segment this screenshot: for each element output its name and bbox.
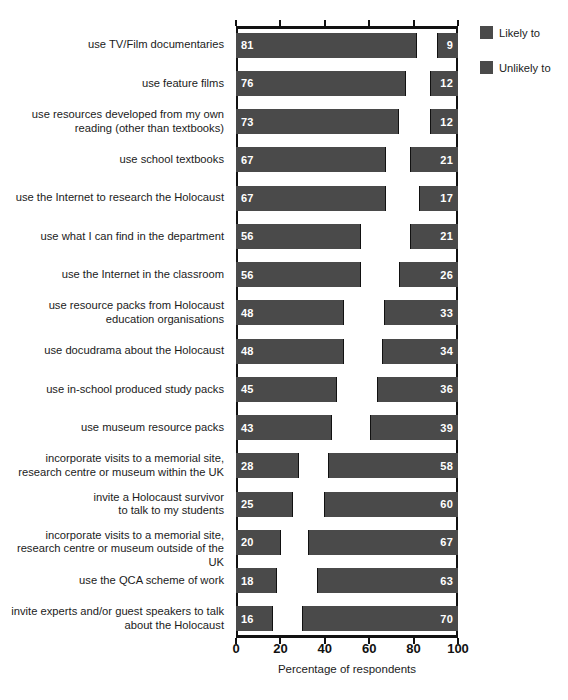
bar-row: 4833	[236, 300, 458, 325]
category-label: use the Internet in the classroom	[0, 268, 224, 281]
category-label-line: incorporate visits to a memorial site,	[0, 452, 224, 465]
x-tick-label: 40	[318, 641, 332, 656]
category-label-line: use the Internet in the classroom	[0, 268, 224, 281]
segment-unlikely: 58	[329, 453, 458, 478]
category-label: use resources developed from my ownreadi…	[0, 108, 224, 135]
category-label: use the QCA scheme of work	[0, 574, 224, 587]
segment-likely: 73	[236, 109, 398, 134]
legend-swatch-icon	[480, 61, 493, 74]
value-label-unlikely: 33	[440, 307, 453, 318]
category-label: use school textbooks	[0, 153, 224, 166]
x-tick-label: 20	[273, 641, 287, 656]
value-label-unlikely: 12	[440, 116, 453, 127]
segment-likely: 81	[236, 33, 416, 58]
segment-neutral	[331, 415, 371, 440]
value-label-likely: 76	[241, 78, 254, 89]
segment-neutral	[343, 339, 383, 364]
segment-neutral	[298, 453, 329, 478]
value-label-unlikely: 36	[440, 384, 453, 395]
value-label-unlikely: 17	[440, 193, 453, 204]
category-label-line: research centre or museum within the UK	[0, 466, 224, 479]
segment-unlikely: 36	[378, 377, 458, 402]
value-label-likely: 43	[241, 422, 254, 433]
legend-label: Unlikely to	[499, 62, 551, 74]
segment-unlikely: 12	[431, 71, 458, 96]
segment-unlikely: 17	[420, 186, 458, 211]
segment-unlikely: 67	[309, 530, 458, 555]
segment-neutral	[385, 147, 412, 172]
stacked-bar-chart: use TV/Film documentariesuse feature fil…	[0, 0, 568, 700]
segment-unlikely: 12	[431, 109, 458, 134]
value-label-likely: 48	[241, 346, 254, 357]
value-label-likely: 25	[241, 499, 254, 510]
category-label-line: use what I can find in the department	[0, 230, 224, 243]
value-label-unlikely: 39	[440, 422, 453, 433]
x-axis-title: Percentage of respondents	[236, 663, 458, 675]
category-label-line: use in-school produced study packs	[0, 383, 224, 396]
segment-neutral	[292, 492, 325, 517]
value-label-unlikely: 21	[440, 231, 453, 242]
segment-likely: 48	[236, 339, 343, 364]
segment-neutral	[405, 71, 432, 96]
plot-area: 8197612731267216717562156264833483445364…	[236, 26, 458, 638]
legend-swatch-icon	[480, 26, 493, 39]
segment-neutral	[398, 109, 431, 134]
bar-row: 4536	[236, 377, 458, 402]
bar-row: 2560	[236, 492, 458, 517]
x-tick-label: 0	[232, 641, 239, 656]
segment-unlikely: 21	[411, 147, 458, 172]
segment-neutral	[385, 186, 421, 211]
bar-row: 4834	[236, 339, 458, 364]
bar-row: 7612	[236, 71, 458, 96]
value-label-likely: 28	[241, 460, 254, 471]
category-label: use feature films	[0, 77, 224, 90]
segment-likely: 56	[236, 224, 360, 249]
value-label-unlikely: 60	[440, 499, 453, 510]
bar-row: 4339	[236, 415, 458, 440]
value-label-likely: 67	[241, 193, 254, 204]
category-label: use docudrama about the Holocaust	[0, 344, 224, 357]
segment-neutral	[336, 377, 378, 402]
segment-likely: 20	[236, 530, 280, 555]
category-label: use the Internet to research the Holocau…	[0, 191, 224, 204]
category-label-line: to talk to my students	[0, 504, 224, 517]
segment-unlikely: 39	[371, 415, 458, 440]
value-label-likely: 20	[241, 537, 254, 548]
category-label: use in-school produced study packs	[0, 383, 224, 396]
value-label-likely: 18	[241, 575, 254, 586]
category-label-line: use museum resource packs	[0, 421, 224, 434]
segment-neutral	[360, 224, 411, 249]
bar-row: 1863	[236, 568, 458, 593]
category-label-line: invite a Holocaust survivor	[0, 491, 224, 504]
x-tick-label: 80	[406, 641, 420, 656]
segment-likely: 76	[236, 71, 405, 96]
category-label: invite experts and/or guest speakers to …	[0, 605, 224, 632]
category-label: invite a Holocaust survivorto talk to my…	[0, 491, 224, 518]
bar-row: 7312	[236, 109, 458, 134]
bar-row: 2858	[236, 453, 458, 478]
segment-likely: 43	[236, 415, 331, 440]
bar-row: 6721	[236, 147, 458, 172]
segment-likely: 67	[236, 186, 385, 211]
segment-unlikely: 63	[318, 568, 458, 593]
category-label: use resource packs from Holocausteducati…	[0, 299, 224, 326]
legend-item: Likely to	[480, 26, 540, 39]
value-label-unlikely: 9	[447, 40, 453, 51]
segment-neutral	[280, 530, 309, 555]
category-label-line: incorporate visits to a memorial site,	[0, 529, 224, 542]
category-label-line: education organisations	[0, 313, 224, 326]
category-label: incorporate visits to a memorial site,re…	[0, 452, 224, 479]
category-label-line: use resources developed from my own	[0, 108, 224, 121]
category-label-line: use feature films	[0, 77, 224, 90]
bar-row: 6717	[236, 186, 458, 211]
bar-row: 5621	[236, 224, 458, 249]
category-label: use museum resource packs	[0, 421, 224, 434]
value-label-likely: 56	[241, 269, 254, 280]
value-label-unlikely: 70	[440, 613, 453, 624]
x-axis-tick-labels: 020406080100	[236, 641, 458, 659]
segment-neutral	[276, 568, 318, 593]
category-label-line: use the Internet to research the Holocau…	[0, 191, 224, 204]
segment-likely: 28	[236, 453, 298, 478]
bar-row: 5626	[236, 262, 458, 287]
category-label: incorporate visits to a memorial site,re…	[0, 529, 224, 569]
